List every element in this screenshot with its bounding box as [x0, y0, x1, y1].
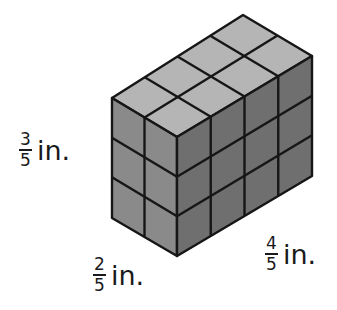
length-numerator: 4: [265, 235, 278, 252]
length-label: 4 5 in.: [265, 235, 316, 273]
width-numerator: 2: [93, 256, 106, 273]
length-unit: in.: [283, 239, 316, 270]
width-fraction: 2 5: [93, 256, 106, 294]
height-denominator: 5: [19, 152, 32, 169]
height-fraction: 3 5: [19, 131, 32, 169]
width-label: 2 5 in.: [93, 256, 144, 294]
height-numerator: 3: [19, 131, 32, 148]
length-fraction: 4 5: [265, 235, 278, 273]
width-denominator: 5: [93, 277, 106, 294]
length-denominator: 5: [265, 256, 278, 273]
prism: [112, 15, 312, 256]
height-label: 3 5 in.: [19, 131, 70, 169]
height-unit: in.: [37, 135, 70, 166]
width-unit: in.: [111, 260, 144, 291]
